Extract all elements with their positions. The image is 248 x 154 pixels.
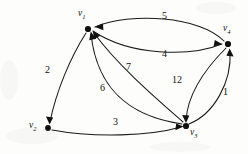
node-dot-v3 (183, 123, 189, 129)
edge-label-v3-v1-6: 6 (100, 83, 105, 93)
edge-path (52, 127, 181, 135)
arrow-head (226, 48, 233, 56)
edge-v3-v1-weight-7 (93, 31, 183, 122)
node-label-v3: v3 (190, 128, 197, 139)
edge-path (93, 31, 222, 52)
edge-label-v1-v4: 4 (162, 49, 167, 59)
node-label-v1: v1 (78, 9, 85, 20)
edge-v4-v1-weight-5 (95, 18, 224, 41)
edge-label-v2-v3: 3 (113, 117, 118, 127)
edge-path (95, 18, 224, 41)
edge-label-v1-v2: 2 (45, 65, 50, 75)
edge-path (94, 33, 183, 122)
arrow-head (95, 24, 103, 31)
edge-label-v3-v4: 1 (223, 87, 228, 97)
edge-path (50, 33, 86, 122)
edge-label-v4-v1: 5 (162, 11, 167, 21)
edge-label-v4-v3: 12 (172, 75, 182, 85)
edge-v4-v3-weight-12 (182, 48, 226, 123)
node-dot-v4 (225, 41, 231, 47)
node-dot-v1 (85, 26, 91, 32)
edge-label-v3-v1-7: 7 (126, 62, 131, 72)
graph-figure: v1 v2 v3 v4 5 4 2 6 7 12 1 3 (0, 0, 248, 154)
edge-path (91, 34, 182, 124)
edge-path (186, 48, 226, 120)
edge-v1-v4-weight-4 (93, 31, 222, 52)
node-label-v2: v2 (29, 121, 36, 132)
node-label-v4: v4 (223, 24, 230, 35)
arrow-head (46, 117, 53, 125)
graph-canvas (0, 0, 248, 154)
node-dot-v2 (45, 125, 51, 131)
edge-v1-v2-weight-2 (46, 33, 86, 125)
